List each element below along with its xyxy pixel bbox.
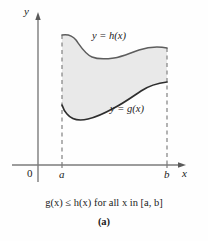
figure-container: y x 0 a b y = h(x) y = g(x) g(x) ≤ h(x) … — [0, 0, 208, 241]
lower-curve-label: y = g(x) — [110, 104, 144, 115]
x-tick-label-a: a — [59, 169, 65, 180]
y-axis-label: y — [24, 6, 29, 17]
figure-caption: g(x) ≤ h(x) for all x in [a, b] — [0, 198, 208, 209]
upper-curve-label: y = h(x) — [92, 31, 126, 42]
y-axis-arrow — [35, 12, 40, 20]
x-tick-label-b: b — [164, 169, 170, 180]
x-axis-label: x — [182, 168, 187, 179]
panel-label: (a) — [0, 217, 208, 228]
origin-label: 0 — [27, 168, 33, 179]
